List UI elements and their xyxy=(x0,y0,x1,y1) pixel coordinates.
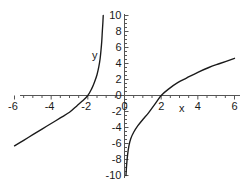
x-tick-label: -2 xyxy=(81,101,91,112)
y-tick-label: 6 xyxy=(102,42,122,53)
y-tick-label: -4 xyxy=(102,122,122,133)
curve-right-branch xyxy=(126,58,235,175)
y-tick-label: -10 xyxy=(102,170,122,181)
x-tick-label: -6 xyxy=(8,101,18,112)
x-tick-label: 0 xyxy=(122,101,128,112)
y-tick-label: -8 xyxy=(102,154,122,165)
chart-plot-svg xyxy=(0,0,251,190)
y-tick-label: 0 xyxy=(102,90,122,101)
x-tick-label: 4 xyxy=(195,101,201,112)
y-tick-label: 8 xyxy=(102,26,122,37)
y-tick-label: 10 xyxy=(102,10,122,21)
x-axis-ticks xyxy=(15,96,235,100)
x-tick-label: 2 xyxy=(158,101,164,112)
y-axis-label: y xyxy=(92,50,98,61)
curve-left-branch xyxy=(15,16,104,146)
y-tick-label: -2 xyxy=(102,106,122,117)
x-tick-label: -4 xyxy=(45,101,55,112)
chart-canvas: -6-4-20246 -10-8-6-4-20246810 x y xyxy=(0,0,251,190)
x-tick-label: 6 xyxy=(232,101,238,112)
y-tick-label: -6 xyxy=(102,138,122,149)
y-tick-label: 4 xyxy=(102,58,122,69)
y-tick-label: 2 xyxy=(102,74,122,85)
x-axis-label: x xyxy=(179,103,185,114)
